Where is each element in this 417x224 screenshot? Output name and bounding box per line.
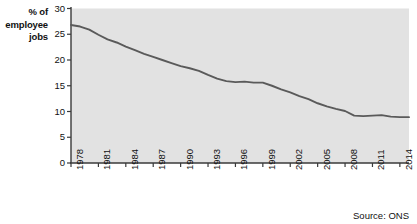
x-tick-label: 1990 <box>185 149 195 170</box>
x-tick-label: 2005 <box>322 149 332 170</box>
x-tick-label: 1999 <box>267 149 277 170</box>
x-tick-label: 2002 <box>294 149 304 170</box>
x-tick-label: 1981 <box>102 149 112 170</box>
x-tick-label: 1987 <box>157 149 167 170</box>
y-axis-title: % of employee jobs <box>0 6 48 44</box>
plot-background-group <box>71 9 409 164</box>
y-tick-label: 25 <box>47 29 65 39</box>
y-tick-label: 30 <box>47 4 65 14</box>
y-tick-label: 15 <box>47 81 65 91</box>
source-note: Source: ONS <box>353 210 409 221</box>
x-tick-label: 2011 <box>376 150 386 170</box>
y-tick-label: 10 <box>47 107 65 117</box>
y-tick-label: 5 <box>47 132 65 142</box>
x-tick-label: 2014 <box>404 149 414 170</box>
y-tick-label: 20 <box>47 55 65 65</box>
x-tick-label: 1984 <box>130 149 140 170</box>
x-tick-label: 1996 <box>239 149 249 170</box>
x-tick-label: 1978 <box>75 149 85 170</box>
x-tick-label: 2008 <box>349 149 359 170</box>
plot-background-rect <box>71 9 409 164</box>
y-tick-label: 0 <box>47 158 65 168</box>
x-tick-label: 1993 <box>212 149 222 170</box>
chart-container: % of employee jobs 051015202530 19781981… <box>0 0 417 224</box>
